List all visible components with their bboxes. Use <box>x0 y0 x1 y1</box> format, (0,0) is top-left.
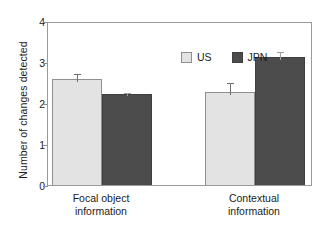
x-axis-label-line: information <box>41 205 161 218</box>
bar-us-1 <box>205 92 255 185</box>
y-tick-label: 4 <box>0 16 45 28</box>
error-bar-stem <box>230 83 231 95</box>
error-bar-cap-top <box>227 83 234 84</box>
y-tick-label: 0 <box>0 180 45 192</box>
legend-label-us: US <box>197 52 212 63</box>
light-gray-swatch-icon <box>181 52 192 63</box>
x-axis-label-line: Focal object <box>41 192 161 205</box>
dark-gray-swatch-icon <box>232 52 243 63</box>
x-axis-label-1: Contextualinformation <box>194 192 314 217</box>
error-bar-cap-top <box>277 52 284 53</box>
error-bar-stem <box>280 52 281 60</box>
legend-label-jpn: JPN <box>248 52 268 63</box>
error-bar-cap-top <box>124 93 131 94</box>
y-tick-label: 1 <box>0 139 45 151</box>
bar-chart-figure: Number of changes detected 01234 US JPN … <box>0 0 329 231</box>
y-tick-label: 2 <box>0 98 45 110</box>
legend-item-jpn: JPN <box>232 52 268 63</box>
bar-us-0 <box>52 79 102 185</box>
legend: US JPN <box>181 52 267 63</box>
y-tick-label: 3 <box>0 57 45 69</box>
error-bar-stem <box>77 74 78 82</box>
bar-jpn-0 <box>102 94 152 185</box>
y-tick-mark <box>43 186 48 187</box>
x-axis-label-0: Focal objectinformation <box>41 192 161 217</box>
bar-jpn-1 <box>255 57 305 185</box>
legend-item-us: US <box>181 52 212 63</box>
plot-area: US JPN <box>47 22 312 186</box>
x-axis-label-line: Contextual <box>194 192 314 205</box>
error-bar-cap-top <box>74 74 81 75</box>
y-axis-title: Number of changes detected <box>17 25 29 195</box>
x-axis-label-line: information <box>194 205 314 218</box>
